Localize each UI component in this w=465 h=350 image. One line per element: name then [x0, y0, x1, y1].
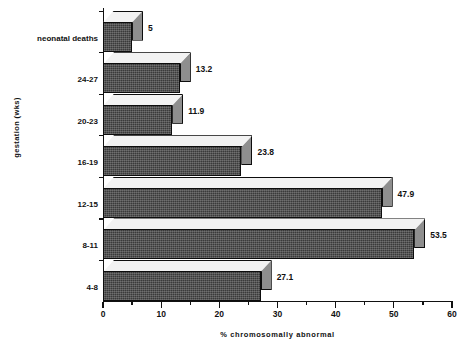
bar-front-face — [103, 188, 382, 218]
x-tick-label-40: 40 — [331, 309, 340, 319]
x-tick-label-0: 0 — [101, 309, 106, 319]
y-category-label-24-27: 24-27 — [0, 75, 98, 84]
x-tick-10 — [161, 302, 162, 308]
y-tick — [99, 218, 103, 219]
x-tick-40 — [335, 302, 336, 308]
x-minor-tick-15 — [190, 302, 191, 305]
bar-front-face — [103, 63, 180, 93]
x-minor-tick-25 — [248, 302, 249, 305]
y-tick — [99, 94, 103, 95]
value-label-neonatal-deaths: 5 — [148, 23, 153, 33]
y-tick — [99, 177, 103, 178]
x-minor-tick-5 — [131, 302, 132, 305]
value-label-16-19: 23.8 — [257, 147, 274, 157]
x-tick-0 — [102, 302, 103, 308]
x-tick-label-50: 50 — [389, 309, 398, 319]
value-label-24-27: 13.2 — [196, 64, 213, 74]
y-category-label-8-11: 8-11 — [0, 241, 98, 250]
bar-front-face — [103, 229, 414, 259]
value-label-8-11: 53.5 — [430, 230, 447, 240]
x-minor-tick-55 — [422, 302, 423, 305]
y-category-label-12-15: 12-15 — [0, 199, 98, 208]
y-category-label-16-19: 16-19 — [0, 158, 98, 167]
x-minor-tick-45 — [364, 302, 365, 305]
x-tick-label-30: 30 — [273, 309, 282, 319]
bar-front-face — [103, 105, 172, 135]
value-label-20-23: 11.9 — [188, 106, 204, 116]
x-minor-tick-35 — [306, 302, 307, 305]
y-category-label-neonatal-deaths: neonatal deaths — [0, 33, 98, 42]
x-tick-60 — [451, 302, 452, 308]
y-tick — [99, 260, 103, 261]
bar-front-face — [103, 22, 132, 52]
x-axis-title: % chromosomally abnormal — [103, 330, 452, 339]
x-tick-50 — [393, 302, 394, 308]
x-tick-20 — [219, 302, 220, 308]
y-category-label-4-8: 4-8 — [0, 283, 98, 292]
y-tick — [99, 135, 103, 136]
bar-front-face — [103, 271, 261, 301]
x-tick-label-20: 20 — [215, 309, 224, 319]
x-tick-label-10: 10 — [156, 309, 165, 319]
x-tick-30 — [277, 302, 278, 308]
x-tick-label-60: 60 — [447, 309, 456, 319]
value-label-4-8: 27.1 — [277, 272, 294, 282]
y-tick — [99, 11, 103, 12]
value-label-12-15: 47.9 — [398, 189, 415, 199]
bar-front-face — [103, 146, 241, 176]
y-tick — [99, 52, 103, 53]
bar-chart: gestation (wks) 0102030405060 4-88-1112-… — [0, 0, 465, 350]
y-category-label-20-23: 20-23 — [0, 116, 98, 125]
